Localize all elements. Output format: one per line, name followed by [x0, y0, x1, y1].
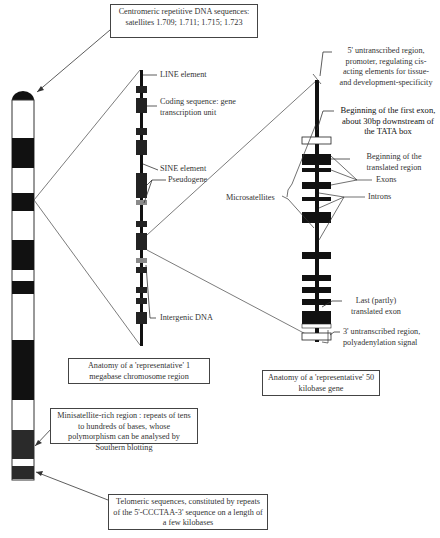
label-sine-element: SINE element — [160, 164, 206, 175]
telomeric-box: Telomeric sequences, constituted by repe… — [108, 494, 268, 530]
chromosome — [12, 91, 34, 480]
megabase-box: Anatomy of a 'representative' 1 megabase… — [68, 358, 210, 384]
label-pseudogene: Pseudogene — [168, 175, 207, 186]
label-first-exon: Beginning of the first exon, about 30bp … — [336, 105, 440, 137]
label-line-element: LINE element — [160, 70, 207, 81]
label-coding-sequence: Coding sequence: gene transcription unit — [160, 97, 268, 118]
label-3-untranscribed: 3' untranscribed region, polyadenylation… — [343, 327, 440, 348]
centromeric-box: Centromeric repetitive DNA sequences: sa… — [110, 4, 258, 38]
label-last-exon: Last (partly) translated exon — [344, 296, 408, 317]
gene-structure — [302, 80, 331, 342]
label-microsatellites: Microsatellites — [226, 193, 275, 204]
label-intergenic-dna: Intergenic DNA — [160, 313, 213, 324]
label-5-untranscribed: 5' untranscribed region, promoter, regul… — [336, 46, 436, 88]
label-introns: Introns — [368, 192, 391, 203]
gene-box: Anatomy of a 'representative' 50 kilobas… — [262, 370, 380, 396]
minisatellite-box: Minisatellite-rich region : repeats of t… — [50, 408, 198, 444]
label-exons: Exons — [376, 175, 396, 186]
megabase-region — [136, 70, 147, 346]
label-translated-start: Beginning of the translated region — [354, 152, 434, 173]
